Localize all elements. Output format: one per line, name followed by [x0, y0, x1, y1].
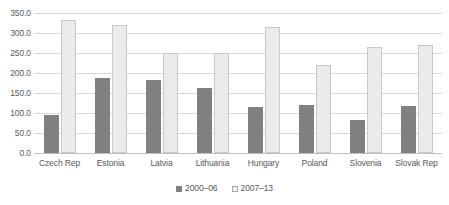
- bar-group: [238, 13, 289, 153]
- bar-chart: 0.050.0100.0150.0200.0250.0300.0350.0 Cz…: [0, 0, 449, 205]
- y-axis-tick-label: 300.0: [10, 29, 31, 38]
- bar-group: [85, 13, 136, 153]
- bar-group: [340, 13, 391, 153]
- bar: [350, 120, 365, 153]
- bar: [367, 47, 382, 153]
- bar: [248, 107, 263, 153]
- legend-label: 2007–13: [241, 184, 273, 193]
- bar: [299, 105, 314, 153]
- bar: [418, 45, 433, 153]
- bar-group: [187, 13, 238, 153]
- y-axis-tick-label: 250.0: [10, 49, 31, 58]
- y-axis: 0.050.0100.0150.0200.0250.0300.0350.0: [0, 13, 31, 153]
- bar: [61, 20, 76, 153]
- gridline-0.0: [34, 153, 442, 154]
- y-axis-tick-label: 0.0: [19, 149, 31, 158]
- x-axis-category-label: Lithuania: [187, 157, 238, 169]
- bar: [316, 65, 331, 153]
- x-axis-category-label: Czech Rep: [34, 157, 85, 169]
- y-axis-tick-label: 150.0: [10, 89, 31, 98]
- clipped-title-artifact: [0, 0, 449, 4]
- y-axis-tick-label: 200.0: [10, 69, 31, 78]
- chart-legend: 2000–062007–13: [0, 184, 449, 193]
- bar-groups: [34, 13, 442, 153]
- bar: [401, 106, 416, 153]
- bar-group: [136, 13, 187, 153]
- legend-swatch-icon: [232, 186, 238, 192]
- legend-item[interactable]: 2007–13: [232, 184, 273, 193]
- bar: [197, 88, 212, 153]
- x-axis-category-label: Slovenia: [340, 157, 391, 169]
- bar: [163, 53, 178, 153]
- legend-label: 2000–06: [185, 184, 217, 193]
- bar: [214, 53, 229, 153]
- bar: [146, 80, 161, 153]
- x-axis-category-label: Poland: [289, 157, 340, 169]
- bar: [112, 25, 127, 153]
- bar: [265, 27, 280, 153]
- legend-item[interactable]: 2000–06: [176, 184, 217, 193]
- bar: [95, 78, 110, 153]
- x-axis-category-label: Estonia: [85, 157, 136, 169]
- y-axis-tick-label: 350.0: [10, 9, 31, 18]
- bar-group: [391, 13, 442, 153]
- x-axis: Czech RepEstoniaLatviaLithuaniaHungaryPo…: [34, 157, 442, 169]
- bar: [44, 115, 59, 153]
- bar-group: [289, 13, 340, 153]
- x-axis-category-label: Hungary: [238, 157, 289, 169]
- legend-swatch-icon: [176, 186, 182, 192]
- bar-group: [34, 13, 85, 153]
- x-axis-category-label: Slovak Rep: [391, 157, 442, 169]
- y-axis-tick-label: 50.0: [15, 129, 31, 138]
- y-axis-tick-label: 100.0: [10, 109, 31, 118]
- x-axis-category-label: Latvia: [136, 157, 187, 169]
